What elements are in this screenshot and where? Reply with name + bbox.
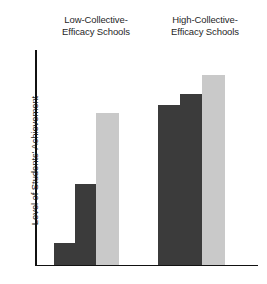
bar-group0-item2 <box>96 113 119 265</box>
bar-group1-item0 <box>158 105 180 265</box>
bar-group0-item1 <box>75 184 96 265</box>
bar-chart-figure: Low-Collective- Efficacy Schools High-Co… <box>0 0 267 284</box>
plot-area <box>0 0 267 284</box>
bar-group0-item0 <box>54 243 75 265</box>
bar-group1-item1 <box>180 94 202 265</box>
bar-group1-item2 <box>202 75 225 265</box>
